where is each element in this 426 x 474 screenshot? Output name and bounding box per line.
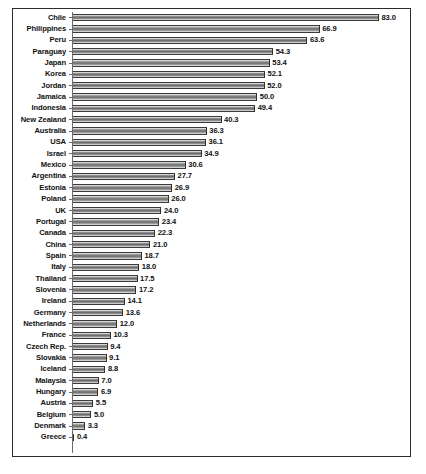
value-label: 5.5 <box>96 399 106 407</box>
value-label: 36.1 <box>209 138 223 146</box>
bar <box>73 332 111 339</box>
value-label: 26.9 <box>175 184 189 192</box>
bar-row: Malaysia7.0 <box>13 375 410 386</box>
category-label: Israel <box>13 150 69 158</box>
bar <box>73 343 108 350</box>
category-label: Indonesia <box>13 104 69 112</box>
value-label: 21.0 <box>153 241 167 249</box>
bar <box>73 309 123 316</box>
bar <box>73 82 265 89</box>
category-label: Netherlands <box>13 320 69 328</box>
bar <box>73 161 186 168</box>
category-label: Belgium <box>13 411 69 419</box>
bar <box>73 127 207 134</box>
bar <box>73 388 98 395</box>
bar-row: Paraguay54.3 <box>13 46 410 57</box>
bar-row: New Zealand40.3 <box>13 114 410 125</box>
bar-wrapper: 12.0 <box>73 318 410 329</box>
value-label: 8.8 <box>108 365 118 373</box>
bar-wrapper: 34.9 <box>73 148 410 159</box>
bar <box>73 184 172 191</box>
value-label: 83.0 <box>382 14 396 22</box>
bar-row: Canada22.3 <box>13 228 410 239</box>
value-label: 18.7 <box>144 252 158 260</box>
value-label: 50.0 <box>260 93 274 101</box>
bar-row: Belgium5.0 <box>13 409 410 420</box>
bar <box>73 48 273 55</box>
bar <box>73 93 257 100</box>
value-label: 53.4 <box>272 59 286 67</box>
bar-row: Jamaica50.0 <box>13 91 410 102</box>
bar-wrapper: 6.9 <box>73 386 410 397</box>
value-label: 26.0 <box>171 195 185 203</box>
bar <box>73 422 85 429</box>
plot-frame: Chile83.0Philippines66.9Peru63.6Paraguay… <box>12 8 411 457</box>
bar-wrapper: 26.9 <box>73 182 410 193</box>
bar-wrapper: 8.8 <box>73 364 410 375</box>
value-label: 17.2 <box>139 286 153 294</box>
bar-wrapper: 14.1 <box>73 296 410 307</box>
bar-wrapper: 27.7 <box>73 171 410 182</box>
bar-wrapper: 30.6 <box>73 159 410 170</box>
bar <box>73 241 150 248</box>
value-label: 23.4 <box>162 218 176 226</box>
category-label: Thailand <box>13 275 69 283</box>
bar <box>73 150 202 157</box>
value-label: 40.3 <box>224 116 238 124</box>
bar <box>73 354 107 361</box>
category-label: Portugal <box>13 218 69 226</box>
bar-row: Jordan52.0 <box>13 80 410 91</box>
value-label: 24.0 <box>164 207 178 215</box>
bar-wrapper: 10.3 <box>73 330 410 341</box>
category-label: Mexico <box>13 161 69 169</box>
bar-wrapper: 23.4 <box>73 216 410 227</box>
value-label: 12.0 <box>120 320 134 328</box>
category-label: Iceland <box>13 365 69 373</box>
bar <box>73 298 125 305</box>
bar-row: Philippines66.9 <box>13 23 410 34</box>
bar-wrapper: 9.1 <box>73 352 410 363</box>
value-label: 52.1 <box>268 70 282 78</box>
bar <box>73 264 139 271</box>
bar-row: Czech Rep.9.4 <box>13 341 410 352</box>
bar <box>73 195 169 202</box>
bar <box>73 71 265 78</box>
bar <box>73 116 222 123</box>
category-label: Estonia <box>13 184 69 192</box>
bar-row: Argentina27.7 <box>13 171 410 182</box>
bar <box>73 434 74 441</box>
bar-wrapper: 0.4 <box>73 432 410 443</box>
value-label: 36.3 <box>209 127 223 135</box>
value-label: 17.5 <box>140 275 154 283</box>
category-label: Czech Rep. <box>13 343 69 351</box>
bar-wrapper: 5.5 <box>73 398 410 409</box>
bar-wrapper: 66.9 <box>73 23 410 34</box>
bar-row: Mexico30.6 <box>13 159 410 170</box>
category-label: Slovakia <box>13 354 69 362</box>
value-label: 14.1 <box>127 297 141 305</box>
bar-wrapper: 5.0 <box>73 409 410 420</box>
bar-row: Thailand17.5 <box>13 273 410 284</box>
bar-row: China21.0 <box>13 239 410 250</box>
bar <box>73 230 155 237</box>
bar-wrapper: 17.5 <box>73 273 410 284</box>
value-label: 3.3 <box>88 422 98 430</box>
bar-row: Slovenia17.2 <box>13 284 410 295</box>
bar <box>73 377 99 384</box>
value-label: 49.4 <box>258 104 272 112</box>
category-label: Korea <box>13 70 69 78</box>
category-label: Greece <box>13 433 69 441</box>
bar-wrapper: 3.3 <box>73 420 410 431</box>
bar-row: Australia36.3 <box>13 125 410 136</box>
bar-wrapper: 52.1 <box>73 69 410 80</box>
category-label: France <box>13 331 69 339</box>
category-label: Spain <box>13 252 69 260</box>
bar-row: Ireland14.1 <box>13 296 410 307</box>
bar-wrapper: 49.4 <box>73 103 410 114</box>
bar-wrapper: 18.0 <box>73 262 410 273</box>
category-label: Paraguay <box>13 48 69 56</box>
plot-area: Chile83.0Philippines66.9Peru63.6Paraguay… <box>13 9 410 456</box>
bar <box>73 400 93 407</box>
bar-row: Estonia26.9 <box>13 182 410 193</box>
bar-row: Poland26.0 <box>13 194 410 205</box>
